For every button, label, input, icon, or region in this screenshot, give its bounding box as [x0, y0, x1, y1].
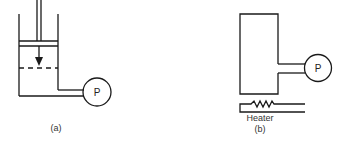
panel-a: P (a)	[19, 0, 111, 133]
panel-b: P Heater (b)	[240, 14, 332, 134]
caption-b: (b)	[255, 124, 266, 134]
heater-label: Heater	[246, 113, 273, 123]
piston	[19, 41, 58, 46]
pressure-gauge-a: P	[83, 78, 111, 106]
gauge-label-b: P	[315, 63, 322, 74]
container	[240, 14, 305, 94]
cylinder	[19, 14, 84, 96]
pressure-gauge-b: P	[305, 55, 332, 82]
gauge-label-a: P	[94, 87, 101, 98]
piston-rod	[37, 0, 41, 41]
down-arrow-icon	[35, 46, 43, 66]
diagram-canvas: P (a) P Heater (b)	[0, 0, 347, 145]
heater-icon	[240, 101, 305, 112]
caption-a: (a)	[51, 123, 62, 133]
